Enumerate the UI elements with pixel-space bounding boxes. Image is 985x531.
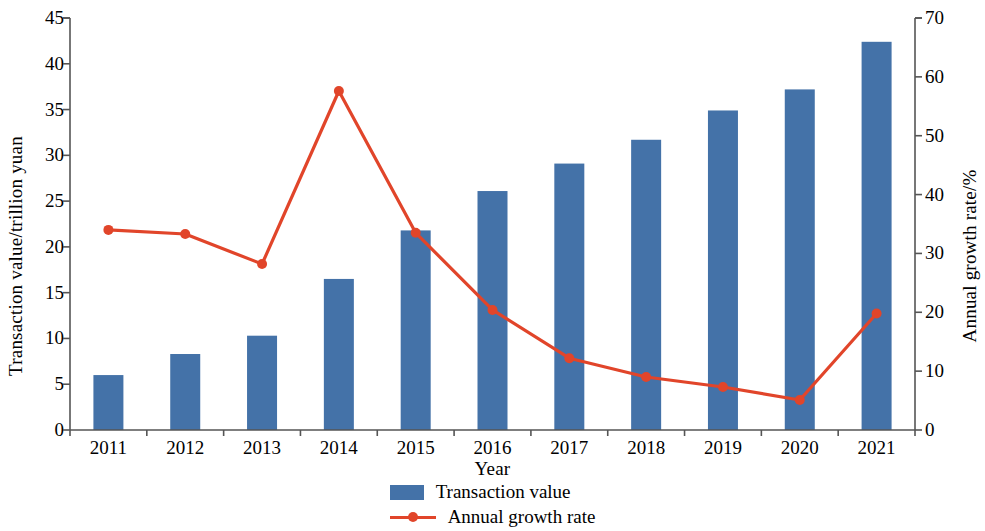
bar-2017[interactable] [554,164,584,430]
legend-label-annual-growth-rate: Annual growth rate [448,506,596,528]
legend-item-annual-growth-rate[interactable]: Annual growth rate [390,506,596,528]
line-point-2013[interactable] [257,259,267,269]
legend-item-transaction-value[interactable]: Transaction value [390,481,596,503]
line-point-2015[interactable] [411,228,421,238]
bar-2014[interactable] [324,279,354,430]
bar-2018[interactable] [631,140,661,430]
line-point-2019[interactable] [718,382,728,392]
bar-2021[interactable] [862,42,892,430]
line-point-2020[interactable] [795,395,805,405]
plot-area [0,0,985,531]
legend-line-swatch-icon [390,510,436,524]
line-point-2018[interactable] [641,372,651,382]
line-point-2014[interactable] [334,86,344,96]
bar-2013[interactable] [247,336,277,430]
line-point-2012[interactable] [180,229,190,239]
legend-bar-swatch-icon [390,485,424,500]
line-point-2017[interactable] [564,353,574,363]
chart-legend: Transaction value Annual growth rate [0,481,985,528]
bar-2020[interactable] [785,89,815,430]
line-point-2021[interactable] [872,308,882,318]
legend-label-transaction-value: Transaction value [436,481,571,503]
bar-series [93,42,891,430]
bar-2015[interactable] [401,230,431,430]
chart-container: Transaction value/trillion yuan Annual g… [0,0,985,531]
bar-2012[interactable] [170,354,200,430]
line-point-2011[interactable] [103,225,113,235]
line-point-2016[interactable] [488,305,498,315]
bar-2011[interactable] [93,375,123,430]
